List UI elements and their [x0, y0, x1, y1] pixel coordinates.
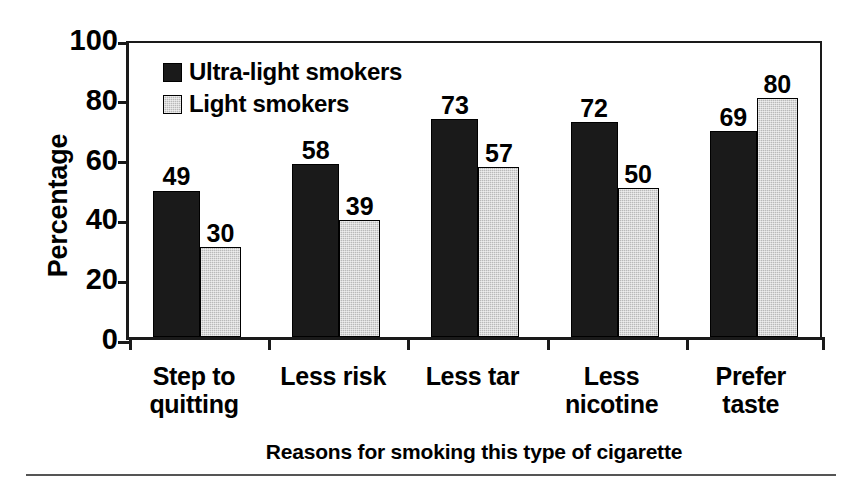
bar-value-label: 49: [141, 164, 212, 189]
chart-legend: Ultra-light smokersLight smokers: [163, 57, 463, 121]
x-tick-mark: [407, 337, 410, 350]
x-tick-mark: [547, 337, 550, 350]
bar-ultra-light-4: [710, 131, 757, 337]
y-tick-mark: [118, 341, 129, 344]
y-tick-label-0: 0: [40, 325, 118, 354]
y-tick-mark: [118, 42, 129, 45]
bar-light-2: [478, 167, 519, 337]
y-tick-mark: [118, 101, 129, 104]
legend-item-0: Ultra-light smokers: [163, 57, 463, 87]
x-tick-mark: [686, 337, 689, 350]
x-tick-mark: [129, 337, 132, 350]
y-tick-label-60: 60: [40, 146, 118, 175]
y-tick-label-40: 40: [40, 205, 118, 234]
bar-light-4: [757, 98, 798, 337]
y-tick-mark: [118, 161, 129, 164]
bar-value-label: 50: [606, 162, 671, 187]
bar-value-label: 80: [745, 72, 810, 97]
bar-value-label: 72: [559, 96, 630, 121]
y-tick-mark: [118, 281, 129, 284]
bar-value-label: 30: [188, 221, 253, 246]
x-tick-mark: [822, 337, 825, 350]
bar-ultra-light-0: [153, 191, 200, 338]
bottom-divider-rule: [26, 474, 836, 476]
bar-ultra-light-1: [292, 164, 339, 337]
category-label-4: Prefertaste: [661, 362, 841, 418]
legend-item-label: Light smokers: [189, 90, 349, 118]
bar-value-label: 39: [327, 194, 392, 219]
category-label-line: Prefer: [661, 362, 841, 390]
bar-value-label: 58: [280, 138, 351, 163]
x-tick-mark: [268, 337, 271, 350]
y-tick-label-100: 100: [40, 26, 118, 55]
bar-chart-figure: Percentage 100806040200 4930583973577250…: [0, 0, 852, 496]
bar-light-0: [200, 247, 241, 337]
bar-ultra-light-3: [571, 122, 618, 337]
bar-light-3: [618, 188, 659, 338]
y-tick-label-80: 80: [40, 86, 118, 115]
category-label-line: taste: [661, 390, 841, 418]
legend-swatch-icon: [163, 95, 182, 114]
legend-item-1: Light smokers: [163, 89, 463, 119]
x-axis-title: Reasons for smoking this type of cigaret…: [126, 440, 822, 464]
category-label-line: quitting: [104, 390, 284, 418]
legend-item-label: Ultra-light smokers: [189, 58, 402, 86]
bar-value-label: 57: [466, 141, 531, 166]
y-axis-tick-labels: 100806040200: [38, 0, 118, 496]
legend-swatch-icon: [163, 63, 182, 82]
y-tick-label-20: 20: [40, 265, 118, 294]
bar-light-1: [339, 220, 380, 337]
y-tick-mark: [118, 221, 129, 224]
